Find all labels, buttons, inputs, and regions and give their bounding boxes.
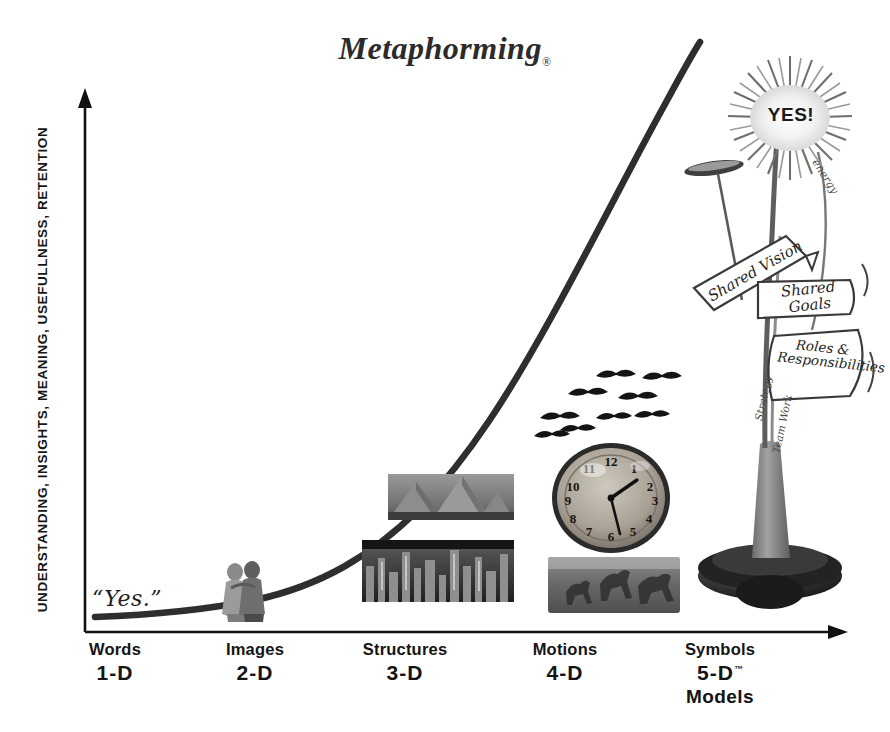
svg-text:10: 10 <box>567 479 580 494</box>
svg-text:9: 9 <box>565 493 572 508</box>
x-tick-motions: Motions 4-D <box>490 640 640 685</box>
city-skyline-photo <box>362 540 514 602</box>
svg-text:12: 12 <box>605 454 618 469</box>
trademark-icon: ™ <box>734 664 743 674</box>
svg-text:8: 8 <box>570 511 577 526</box>
x-tick-symbols-dim: 5-D™ <box>645 661 795 685</box>
svg-text:2: 2 <box>647 479 654 494</box>
x-tick-symbols: Symbols 5-D™ Models <box>645 640 795 708</box>
x-tick-symbols-name: Symbols <box>645 640 795 659</box>
y-axis <box>78 88 92 632</box>
people-photo <box>222 561 265 622</box>
x-tick-images-dim: 2-D <box>180 661 330 685</box>
birds-photo <box>534 370 682 438</box>
x-tick-images: Images 2-D <box>180 640 330 685</box>
x-tick-structures-name: Structures <box>330 640 480 659</box>
dandelion-sculpture <box>683 56 873 609</box>
svg-text:5: 5 <box>630 524 637 539</box>
pyramids-photo <box>388 474 514 520</box>
analog-clock-photo: 1212 345 678 91011 <box>552 443 670 553</box>
y-axis-label: UNDERSTANDING, INSIGHTS, MEANING, USEFUL… <box>35 90 50 650</box>
x-tick-symbols-dim-text: 5-D <box>697 661 734 684</box>
origin-annotation: “Yes.” <box>92 586 162 611</box>
x-tick-words: Words 1-D <box>40 640 190 685</box>
svg-text:3: 3 <box>652 493 659 508</box>
x-tick-symbols-extra: Models <box>645 686 795 708</box>
x-tick-motions-dim: 4-D <box>490 661 640 685</box>
x-tick-images-name: Images <box>180 640 330 659</box>
axes-and-curve: 1212 345 678 91011 <box>0 0 890 732</box>
x-tick-words-name: Words <box>40 640 190 659</box>
x-tick-structures: Structures 3-D <box>330 640 480 685</box>
horses-photo <box>548 557 680 613</box>
x-axis <box>85 625 848 639</box>
svg-text:6: 6 <box>608 529 615 544</box>
svg-text:4: 4 <box>646 511 653 526</box>
x-tick-structures-dim: 3-D <box>330 661 480 685</box>
starburst-label: YES! <box>762 104 820 126</box>
svg-text:7: 7 <box>586 524 593 539</box>
chart-canvas: Metaphorming® <box>0 0 890 732</box>
x-tick-words-dim: 1-D <box>40 661 190 685</box>
x-tick-motions-name: Motions <box>490 640 640 659</box>
